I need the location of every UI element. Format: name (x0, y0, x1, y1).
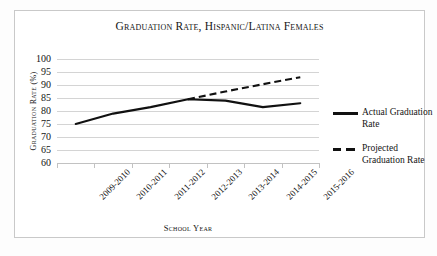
x-axis-tick (57, 163, 58, 168)
x-axis-category-label: 2014-2015 (284, 167, 319, 202)
y-axis-tick-label: 65 (41, 145, 51, 155)
x-axis-category-label: 2011-2012 (172, 167, 206, 201)
legend-dashed-line-swatch-icon (333, 143, 358, 155)
x-axis-tick (132, 163, 133, 168)
legend-entry[interactable]: Projected Graduation Rate (333, 143, 437, 166)
x-axis-tick (94, 163, 95, 168)
x-axis-tick (319, 163, 320, 168)
x-axis-tick (282, 163, 283, 168)
series-lines (57, 59, 319, 163)
chart-frame: Graduation Rate, Hispanic/Latina Females… (14, 10, 425, 238)
legend-label: Actual Graduation Rate (362, 107, 437, 130)
x-axis-category-label: 2009-2010 (97, 167, 132, 202)
x-axis-tick (207, 163, 208, 168)
y-axis-tick-label: 90 (41, 80, 51, 90)
y-axis-tick-label: 95 (41, 67, 51, 77)
x-axis-line (57, 163, 319, 164)
x-axis-category-label: 2013-2014 (247, 167, 282, 202)
y-axis-tick-label: 80 (41, 106, 51, 116)
legend-label: Projected Graduation Rate (362, 143, 437, 166)
chart-legend: Actual Graduation RateProjected Graduati… (333, 107, 437, 179)
legend-solid-line-swatch-icon (333, 107, 358, 119)
scanned-page-background: Graduation Rate, Hispanic/Latina Females… (0, 0, 437, 256)
y-axis-title: Graduation Rate (%) (29, 59, 41, 163)
series-line-projected-graduation-rate (188, 77, 300, 99)
series-line-actual-graduation-rate (76, 99, 301, 124)
legend-entry[interactable]: Actual Graduation Rate (333, 107, 437, 130)
plot-area: 1009590858075706560 2009-20102010-201120… (57, 59, 319, 163)
y-axis-tick-label: 85 (41, 93, 51, 103)
x-axis-category-label: 2012-2013 (209, 167, 244, 202)
y-axis-tick-label: 60 (41, 158, 51, 168)
x-axis-category-label: 2010-2011 (134, 167, 168, 201)
x-axis-tick (244, 163, 245, 168)
x-axis-title: School Year (57, 223, 319, 233)
x-axis-tick (169, 163, 170, 168)
y-axis-tick-label: 100 (36, 54, 51, 64)
y-axis-tick-label: 75 (41, 119, 51, 129)
chart-title: Graduation Rate, Hispanic/Latina Females (15, 20, 424, 32)
y-axis-tick-label: 70 (41, 132, 51, 142)
